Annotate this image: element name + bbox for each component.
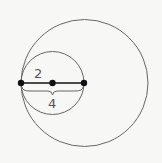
point-left — [18, 80, 24, 86]
point-right — [81, 80, 87, 86]
concentric-circles-diagram: 2 4 — [0, 0, 162, 163]
diameter-brace — [22, 87, 83, 95]
point-center — [49, 80, 55, 86]
diameter-label: 4 — [48, 96, 56, 111]
radius-label: 2 — [34, 66, 42, 81]
